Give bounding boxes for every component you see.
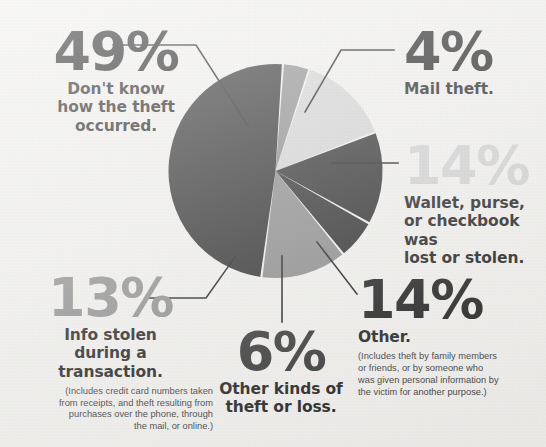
callout-info-stolen: 13% Info stolen during a transaction. (I… [8, 272, 213, 433]
headline-mail-theft: Mail theft. [404, 80, 536, 98]
fine-print-other: (Includes theft by family members or fri… [358, 351, 544, 399]
percent-info-stolen: 13% [8, 272, 213, 323]
fine-print-line: (Includes credit card numbers taken [8, 386, 213, 398]
headline-line: or checkbook was [404, 212, 546, 248]
headline-line: Other kinds of [206, 380, 356, 398]
callout-wallet: 14% Wallet, purse, or checkbook was lost… [404, 140, 546, 267]
headline-line: Don't know [28, 80, 204, 98]
headline-dont-know: Don't know how the theft occurred. [28, 80, 204, 134]
headline-line: transaction. [8, 363, 213, 381]
percent-other: 14% [358, 274, 544, 325]
callout-other-kinds: 6% Other kinds of theft or loss. [206, 326, 356, 417]
fine-print-line: purchases over the phone, through [8, 409, 213, 421]
percent-wallet: 14% [404, 140, 546, 191]
headline-line: Wallet, purse, [404, 194, 546, 212]
fine-print-line: from receipts, and theft resulting from [8, 398, 213, 410]
headline-other-kinds: Other kinds of theft or loss. [206, 380, 356, 416]
headline-info-stolen: Info stolen during a transaction. [8, 326, 213, 380]
percent-dont-know: 49% [28, 26, 204, 77]
callout-other: 14% Other. (Includes theft by family mem… [358, 274, 544, 399]
headline-line: how the theft [28, 98, 204, 116]
headline-other: Other. [358, 328, 544, 346]
chart-stage: 49% Don't know how the theft occurred. 4… [0, 0, 546, 447]
fine-print-line: was given personal information by [358, 375, 544, 387]
headline-wallet: Wallet, purse, or checkbook was lost or … [404, 194, 546, 267]
fine-print-line: the victim for another purpose.) [358, 387, 544, 399]
percent-mail-theft: 4% [404, 26, 536, 77]
fine-print-line: the mail, or online.) [8, 421, 213, 433]
headline-line: theft or loss. [206, 398, 356, 416]
fine-print-line: or friends, or by someone who [358, 363, 544, 375]
percent-other-kinds: 6% [206, 326, 356, 377]
headline-line: occurred. [28, 117, 204, 135]
fine-print-info-stolen: (Includes credit card numbers taken from… [8, 386, 213, 434]
fine-print-line: (Includes theft by family members [358, 351, 544, 363]
headline-line: Other. [358, 328, 544, 346]
callout-dont-know: 49% Don't know how the theft occurred. [28, 26, 204, 135]
headline-line: lost or stolen. [404, 249, 546, 267]
headline-line: Mail theft. [404, 80, 536, 98]
callout-mail-theft: 4% Mail theft. [404, 26, 536, 98]
headline-line: during a [8, 344, 213, 362]
headline-line: Info stolen [8, 326, 213, 344]
